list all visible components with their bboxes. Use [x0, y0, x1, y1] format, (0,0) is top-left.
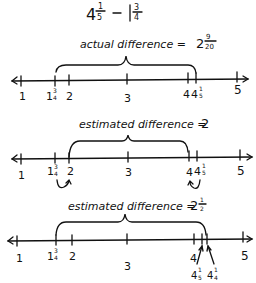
axis-line	[8, 239, 252, 241]
label-5: 5	[241, 249, 249, 263]
label-3: 3	[124, 92, 131, 105]
title-whole-1: 4	[86, 5, 96, 24]
label-1: 1	[19, 90, 26, 103]
title-den-1: 5	[97, 13, 102, 22]
label-4-1-4-num: 1	[214, 266, 218, 273]
curly-brace	[56, 214, 206, 235]
number-line-estimate-half: estimated difference = 2 1 2 1 1 3 4 2 3…	[8, 196, 252, 281]
label-1-3-4-whole: 1	[47, 165, 54, 178]
label-4-1-5-whole: 4	[194, 165, 201, 178]
label-1-3-4-whole: 1	[46, 90, 53, 103]
number-line-estimate-whole: estimated difference = 2 1 1 3 4 2 3 4 4…	[12, 116, 252, 188]
estimated-result-num: 1	[200, 196, 204, 203]
title-num-1: 1	[98, 2, 103, 11]
label-4-1-5-num: 1	[202, 162, 206, 169]
label-1-3-4-num: 3	[54, 163, 58, 170]
label-4-1-5-whole: 4	[191, 88, 198, 101]
label-1-3-4-den: 4	[54, 254, 58, 261]
axis-line	[12, 157, 252, 159]
estimated-result-whole: 2	[201, 116, 209, 131]
label-4-1-5-den: 5	[202, 169, 206, 176]
label-1: 1	[18, 169, 25, 182]
title-num-2: 3	[134, 3, 139, 12]
label-4-1-5-whole: 4	[191, 270, 197, 281]
label-1-3-4-whole: 1	[47, 250, 54, 263]
actual-result-whole: 2	[196, 36, 204, 51]
label-4-1-5-num: 1	[199, 85, 203, 92]
label-5: 5	[237, 164, 245, 178]
label-3: 3	[125, 166, 132, 179]
actual-result-den: 20	[205, 43, 214, 51]
label-4-1-5-num: 1	[198, 266, 202, 273]
label-4: 4	[190, 252, 197, 265]
estimated-result-den: 2	[200, 205, 204, 212]
label-2: 2	[67, 165, 74, 178]
estimated-result-whole: 2	[190, 198, 198, 213]
pointer-arrow-4-1-4	[208, 246, 214, 264]
label-4-1-4-den: 4	[214, 274, 218, 281]
label-4-1-5-den: 5	[198, 274, 202, 281]
label-1-3-4-num: 3	[54, 247, 58, 254]
label-3: 3	[124, 260, 131, 273]
title-expression: 4 1 5 3 4	[86, 2, 142, 24]
curly-brace	[56, 56, 196, 73]
number-line-diagram: 4 1 5 3 4 actual difference = 2 9 20 1 1…	[0, 0, 256, 283]
number-line-actual: actual difference = 2 9 20 1 1 3 4 2 3 4…	[12, 33, 248, 105]
label-1-3-4-den: 4	[54, 170, 58, 177]
estimated-difference-label: estimated difference =	[79, 118, 206, 131]
title-den-2: 4	[134, 13, 139, 22]
label-2: 2	[66, 90, 73, 103]
label-2: 2	[69, 250, 76, 263]
label-1-3-4-den: 4	[53, 94, 57, 101]
estimated-difference-label: estimated difference =	[68, 200, 195, 213]
rounding-arrow-down	[190, 180, 200, 188]
label-4: 4	[183, 88, 190, 101]
label-1-3-4-num: 3	[53, 87, 57, 94]
axis-line	[12, 79, 248, 81]
label-5: 5	[234, 83, 242, 97]
label-4-1-4-whole: 4	[207, 270, 213, 281]
actual-result-num: 9	[206, 33, 210, 41]
label-4-1-5-den: 5	[199, 92, 203, 99]
label-1: 1	[16, 252, 23, 265]
label-4: 4	[186, 166, 193, 179]
actual-difference-label: actual difference =	[80, 38, 186, 51]
